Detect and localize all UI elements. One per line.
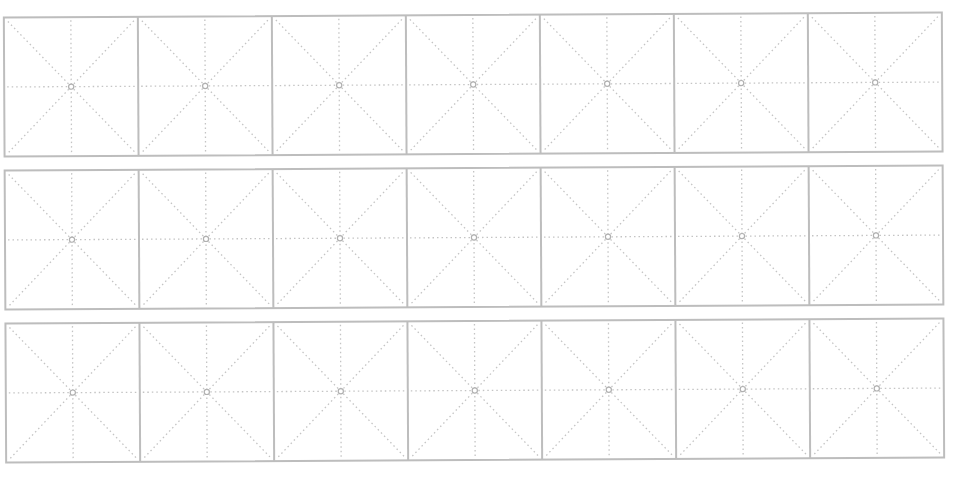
grid-cell xyxy=(139,322,271,462)
grid-cell xyxy=(809,319,941,459)
cell-divider xyxy=(273,169,274,308)
center-dot xyxy=(471,82,476,87)
grid-cell xyxy=(139,169,271,309)
center-dot xyxy=(605,234,610,239)
cell-divider xyxy=(273,322,274,461)
cell-divider xyxy=(406,15,407,154)
center-dot xyxy=(338,389,343,394)
grid-cell xyxy=(674,13,806,153)
cell-divider xyxy=(139,323,140,462)
grid-cell xyxy=(675,319,807,459)
center-dot xyxy=(874,386,879,391)
grid-cell xyxy=(8,326,137,460)
grid-cell xyxy=(540,14,672,154)
cell-divider xyxy=(272,16,273,155)
cell-divider xyxy=(674,14,675,153)
cell-divider xyxy=(407,321,408,460)
grid-row xyxy=(4,13,943,157)
center-dot xyxy=(337,83,342,88)
cell-divider xyxy=(541,168,542,307)
cell-divider xyxy=(407,168,408,307)
center-dot xyxy=(69,237,74,242)
center-dot xyxy=(203,236,208,241)
center-dot xyxy=(740,387,745,392)
grid-row xyxy=(5,166,944,310)
center-dot xyxy=(471,235,476,240)
center-dot xyxy=(739,81,744,86)
grid-cell xyxy=(407,168,539,308)
cell-divider xyxy=(139,170,140,309)
practice-sheet xyxy=(0,0,956,477)
center-dot xyxy=(69,84,74,89)
grid-canvas xyxy=(0,0,956,477)
cell-divider xyxy=(809,166,810,305)
center-dot xyxy=(739,234,744,239)
grid-cell xyxy=(541,167,673,307)
grid-cell xyxy=(406,15,538,155)
grid-cell xyxy=(272,15,404,155)
grid-cell xyxy=(407,321,539,461)
center-dot xyxy=(203,83,208,88)
center-dot xyxy=(337,236,342,241)
center-dot xyxy=(605,81,610,86)
cell-divider xyxy=(541,321,542,460)
grid-group xyxy=(4,13,944,463)
cell-divider xyxy=(809,319,810,458)
cell-divider xyxy=(675,320,676,459)
center-dot xyxy=(873,233,878,238)
grid-cell xyxy=(273,168,405,308)
grid-row xyxy=(5,319,944,463)
cell-divider xyxy=(138,17,139,156)
grid-cell xyxy=(8,173,137,307)
grid-cell xyxy=(7,20,136,154)
cell-divider xyxy=(808,13,809,152)
cell-divider xyxy=(675,167,676,306)
cell-divider xyxy=(540,15,541,154)
grid-cell xyxy=(675,166,807,306)
center-dot xyxy=(873,80,878,85)
center-dot xyxy=(472,388,477,393)
center-dot xyxy=(606,387,611,392)
grid-cell xyxy=(138,16,270,156)
center-dot xyxy=(70,390,75,395)
grid-cell xyxy=(808,13,940,153)
grid-cell xyxy=(273,321,405,461)
grid-cell xyxy=(541,320,673,460)
grid-cell xyxy=(809,166,941,306)
center-dot xyxy=(204,389,209,394)
